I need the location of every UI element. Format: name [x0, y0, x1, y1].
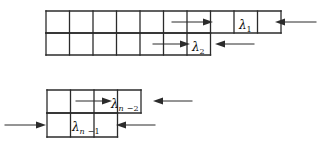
lambda-n-minus-2-subscript: n	[119, 104, 124, 113]
lambda-2-label: λ2	[192, 38, 205, 56]
lambda-n-minus-2-label: λn−2	[111, 95, 139, 113]
arrow-right-row1-head	[203, 19, 213, 26]
lambda-n-minus-1-subscript: n	[80, 127, 85, 136]
arrow-left-row2-head	[215, 41, 225, 48]
diagram-svg	[0, 0, 318, 146]
arrow-right-rowbot-head	[36, 122, 46, 129]
lambda-n-minus-1-offset: −1	[88, 127, 100, 136]
lambda-1-label: λ1	[239, 16, 252, 34]
lambda-n-minus-2-symbol: λ	[111, 97, 119, 111]
figure-canvas: λ1λ2λn−2λn−1	[0, 0, 318, 146]
lambda-n-minus-2-offset: −2	[127, 104, 139, 113]
lambda-2-symbol: λ	[192, 40, 200, 54]
arrow-left-row1-head	[275, 19, 285, 26]
lambda-1-symbol: λ	[239, 18, 247, 32]
lambda-1-subscript: 1	[247, 25, 252, 34]
arrow-right-row2-head	[180, 41, 190, 48]
lambda-n-minus-1-label: λn−1	[72, 118, 100, 136]
lambda-n-minus-1-symbol: λ	[72, 120, 80, 134]
arrow-left-rowtop-head	[153, 98, 163, 105]
lambda-2-subscript: 2	[200, 47, 205, 56]
